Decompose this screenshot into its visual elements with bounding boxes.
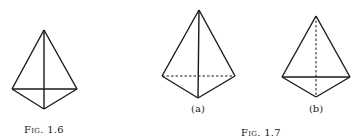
tetrahedron-fig-1-7b <box>282 16 350 97</box>
figure-caption-1-7: Fig. 1.7 <box>241 127 281 138</box>
figure-caption-1-6: Fig. 1.6 <box>24 124 64 135</box>
figures-canvas <box>0 0 363 140</box>
tetrahedron-fig-1-6 <box>12 30 77 109</box>
subfigure-label-a: (a) <box>191 103 205 114</box>
tetrahedron-fig-1-7a <box>162 10 235 98</box>
subfigure-label-b: (b) <box>309 103 323 114</box>
